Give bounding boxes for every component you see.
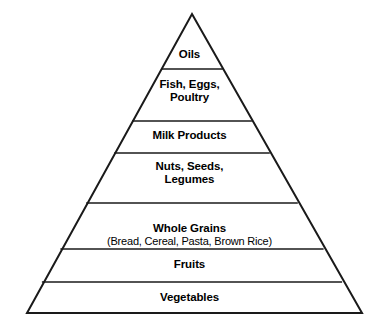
band-label-milk-products: Milk Products — [0, 129, 379, 142]
band-label-nuts-seeds-legumes: Nuts, Seeds, Legumes — [0, 160, 379, 186]
band-label-fish-eggs-poultry: Fish, Eggs, Poultry — [0, 78, 379, 104]
pyramid-label-layer: Oils Fish, Eggs, Poultry Milk Products N… — [0, 0, 379, 327]
band-label-whole-grains: Whole Grains (Bread, Cereal, Pasta, Brow… — [0, 209, 379, 261]
band-label-oils: Oils — [0, 48, 379, 61]
band-label-whole-grains-title: Whole Grains — [153, 222, 226, 234]
band-label-vegetables: Vegetables — [0, 291, 379, 304]
band-label-fruits: Fruits — [0, 258, 379, 271]
food-pyramid-figure: Oils Fish, Eggs, Poultry Milk Products N… — [0, 0, 379, 327]
band-sublabel-whole-grains-examples: (Bread, Cereal, Pasta, Brown Rice) — [0, 235, 379, 248]
